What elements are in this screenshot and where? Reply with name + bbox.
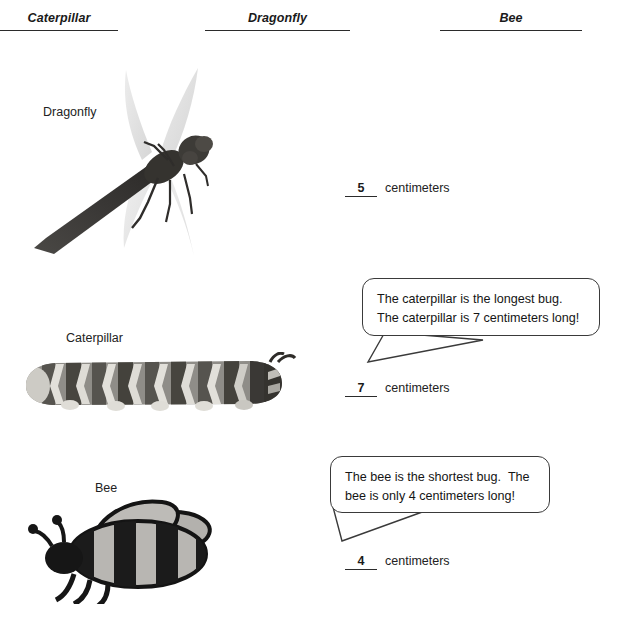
header-blank-bee-label: Bee — [499, 8, 522, 28]
caterpillar-measurement[interactable]: 7 centimeters — [345, 381, 450, 397]
dragonfly-measurement[interactable]: 5 centimeters — [345, 181, 450, 197]
dragonfly-measurement-value[interactable]: 5 — [345, 181, 377, 197]
caterpillar-speech-bubble: The caterpillar is the longest bug. The … — [362, 278, 600, 336]
dragonfly-picture-label: Dragonfly — [43, 105, 97, 119]
bee-speech-bubble: The bee is the shortest bug. The bee is … — [330, 456, 550, 513]
caterpillar-bubble-tail — [355, 330, 505, 370]
dragonfly-image — [18, 42, 270, 270]
bee-picture-label: Bee — [95, 481, 117, 495]
header-blank-bee[interactable]: Bee — [440, 8, 582, 31]
bee-measurement-unit: centimeters — [385, 554, 450, 568]
caterpillar-bubble-line-1: The caterpillar is the longest bug. — [377, 290, 585, 309]
caterpillar-measurement-value[interactable]: 7 — [345, 381, 377, 397]
caterpillar-image — [12, 352, 302, 414]
dragonfly-measurement-unit: centimeters — [385, 181, 450, 195]
header-blank-caterpillar-label: Caterpillar — [28, 8, 91, 28]
caterpillar-picture-label: Caterpillar — [66, 331, 123, 345]
bee-bubble-line-1: The bee is the shortest bug. The — [345, 468, 535, 487]
caterpillar-bubble-line-2: The caterpillar is 7 centimeters long! — [377, 309, 585, 328]
bee-bubble-line-2: bee is only 4 centimeters long! — [345, 487, 535, 506]
bee-image — [22, 492, 222, 604]
bee-measurement-value[interactable]: 4 — [345, 554, 377, 570]
worksheet-page: Caterpillar Dragonfly Bee — [0, 0, 618, 617]
header-blank-dragonfly-label: Dragonfly — [248, 8, 307, 28]
bee-measurement[interactable]: 4 centimeters — [345, 554, 450, 570]
caterpillar-measurement-unit: centimeters — [385, 381, 450, 395]
header-blank-dragonfly[interactable]: Dragonfly — [205, 8, 350, 31]
header-blank-caterpillar[interactable]: Caterpillar — [0, 8, 118, 31]
